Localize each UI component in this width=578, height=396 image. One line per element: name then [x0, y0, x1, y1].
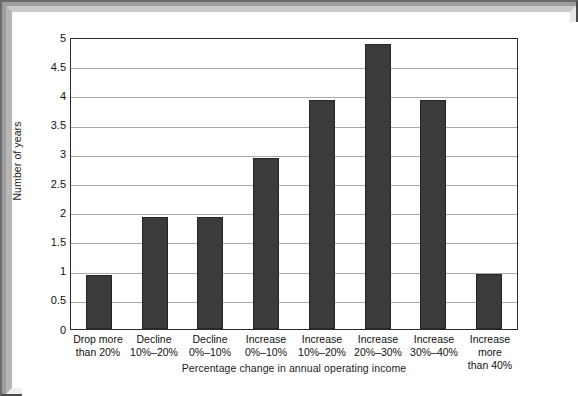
- bar-slot: [71, 39, 127, 329]
- bar-slot: [294, 39, 350, 329]
- bar-slot: [183, 39, 239, 329]
- bar[interactable]: [420, 100, 446, 330]
- bar-slot: [406, 39, 462, 329]
- y-axis-tick-label: 3: [32, 149, 66, 160]
- bar[interactable]: [309, 100, 335, 330]
- y-axis-tick-label: 0: [32, 325, 66, 336]
- bar-slot: [350, 39, 406, 329]
- plot-area: [70, 38, 518, 330]
- y-axis-tick-label: 4: [32, 91, 66, 102]
- bar-chart: Number of years 54.543.532.521.510.50 Dr…: [0, 0, 578, 396]
- bar[interactable]: [365, 44, 391, 329]
- bar-slot: [461, 39, 517, 329]
- bar[interactable]: [86, 275, 112, 329]
- y-axis-tick-label: 1: [32, 266, 66, 277]
- y-axis-tick-label: 4.5: [32, 62, 66, 73]
- y-axis-tick-label: 5: [32, 33, 66, 44]
- bar-slot: [127, 39, 183, 329]
- bar[interactable]: [142, 217, 168, 329]
- y-axis-tick-label: 3.5: [32, 120, 66, 131]
- bar-slot: [238, 39, 294, 329]
- bar-series: [71, 39, 517, 329]
- bar[interactable]: [253, 158, 279, 329]
- bar[interactable]: [476, 274, 502, 329]
- bar[interactable]: [197, 217, 223, 329]
- x-axis-title: Percentage change in annual operating in…: [70, 362, 518, 374]
- y-axis-tick-label: 0.5: [32, 295, 66, 306]
- y-axis-tick-labels: 54.543.532.521.510.50: [28, 0, 66, 396]
- y-axis-tick-label: 1.5: [32, 237, 66, 248]
- y-axis-tick-label: 2: [32, 208, 66, 219]
- y-axis-title: Number of years: [11, 111, 23, 211]
- y-axis-tick-label: 2.5: [32, 179, 66, 190]
